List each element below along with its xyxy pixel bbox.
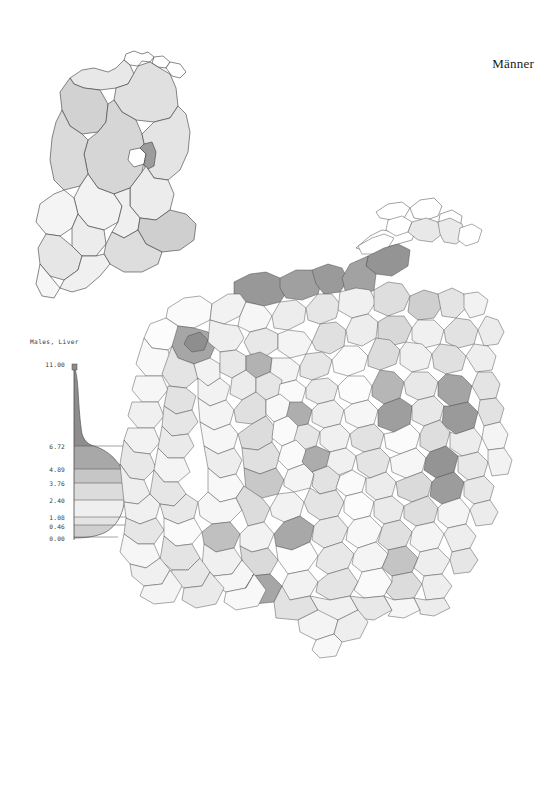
page-title: Männer — [492, 56, 534, 72]
legend-tick-1: 6.72 — [25, 443, 65, 450]
map-regions — [120, 198, 512, 658]
legend-title: Males, Liver — [30, 338, 79, 345]
legend-tick-6: 0.46 — [25, 523, 65, 530]
legend-tick-5: 1.08 — [25, 514, 65, 521]
main-choropleth-map — [120, 190, 540, 790]
legend-tick-4: 2.40 — [25, 497, 65, 504]
legend-tick-2: 4.89 — [25, 466, 65, 473]
atlas-page: Männer — [0, 0, 556, 803]
legend-tick-7: 0.00 — [25, 535, 65, 542]
legend-tick-3: 3.76 — [25, 480, 65, 487]
legend-tick-0: 11.00 — [25, 361, 65, 368]
